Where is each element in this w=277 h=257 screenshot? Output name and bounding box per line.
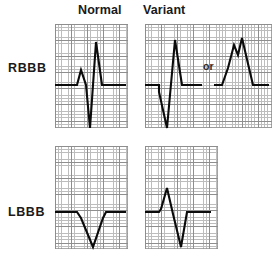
ecg-waveform-rbbb-variant-right bbox=[214, 38, 269, 85]
ecg-waveform-rbbb-variant-left bbox=[145, 40, 202, 128]
ecg-waveform-lbbb-normal bbox=[55, 212, 126, 247]
column-header-normal: Normal bbox=[78, 3, 122, 17]
ecg-panel-lbbb-normal bbox=[55, 146, 128, 249]
or-connector-label: or bbox=[203, 60, 214, 72]
ecg-trace-rbbb-normal bbox=[55, 24, 128, 128]
ecg-waveform-rbbb-normal bbox=[55, 42, 126, 128]
ecg-panel-rbbb-normal bbox=[55, 24, 128, 128]
ecg-panel-lbbb-variant bbox=[145, 146, 218, 249]
ecg-trace-rbbb-variant bbox=[145, 24, 272, 128]
ecg-panel-rbbb-variant bbox=[145, 24, 272, 128]
ecg-trace-lbbb-variant bbox=[145, 146, 218, 249]
row-label-rbbb: RBBB bbox=[8, 61, 47, 75]
ecg-figure: Normal Variant RBBB LBBB or bbox=[0, 0, 277, 257]
row-label-lbbb: LBBB bbox=[8, 205, 45, 219]
ecg-trace-lbbb-normal bbox=[55, 146, 128, 249]
ecg-waveform-lbbb-variant bbox=[145, 188, 211, 247]
column-header-variant: Variant bbox=[143, 3, 185, 17]
